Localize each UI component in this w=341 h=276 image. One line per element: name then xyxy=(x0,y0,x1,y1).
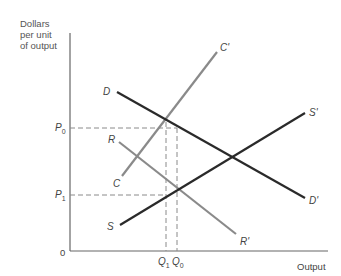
curve-c xyxy=(122,52,217,176)
label-s-prime: S' xyxy=(309,107,319,118)
label-q0: Q0 xyxy=(172,256,184,269)
label-p1: P1 xyxy=(55,189,66,202)
label-d: D xyxy=(103,86,110,97)
y-axis-title: Dollars per unit of output xyxy=(20,18,57,51)
label-c-prime: C' xyxy=(220,42,230,53)
label-s: S xyxy=(107,221,114,232)
economics-diagram: Dollars per unit of output D D' S S' C C… xyxy=(0,0,341,276)
label-c: C xyxy=(113,178,121,189)
label-r: R xyxy=(108,134,115,145)
origin-label: 0 xyxy=(60,247,65,258)
x-axis-title: Output xyxy=(297,261,326,272)
label-r-prime: R' xyxy=(240,236,250,247)
curve-s xyxy=(120,113,305,225)
label-p0: P0 xyxy=(55,122,66,135)
label-q1: Q1 xyxy=(158,256,170,269)
label-d-prime: D' xyxy=(309,195,319,206)
